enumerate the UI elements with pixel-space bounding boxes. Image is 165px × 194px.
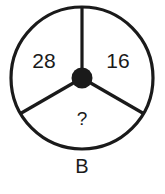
- bottom-sector-unknown-value: ?: [77, 108, 88, 129]
- figure-label: B: [75, 155, 88, 177]
- center-hub-icon: [72, 68, 93, 89]
- left-sector-value: 28: [32, 49, 55, 72]
- segmented-circle-puzzle-figure: 28 16 ? B: [0, 0, 165, 194]
- wheel-diagram: 28 16 ? B: [0, 0, 165, 194]
- right-sector-value: 16: [106, 49, 129, 72]
